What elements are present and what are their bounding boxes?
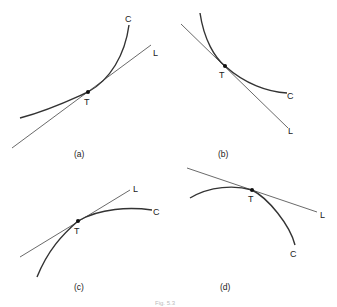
tangent-point-d xyxy=(250,188,254,192)
line-label-a: L xyxy=(153,48,158,58)
curve-d xyxy=(190,187,295,245)
tangent-point-a xyxy=(86,90,90,94)
curve-label-d: C xyxy=(290,249,297,259)
curve-b xyxy=(200,13,287,93)
panel-label-a: (a) xyxy=(74,149,85,159)
curve-label-b: C xyxy=(287,91,294,101)
line-label-d: L xyxy=(320,210,325,220)
panel-label-d: (d) xyxy=(220,282,231,292)
tangent-point-c xyxy=(76,219,80,223)
tangent-lines-figure: C L T (a) C L T (b) C L T (c) C L T (d) … xyxy=(0,0,337,307)
panel-b: C L T (b) xyxy=(181,13,294,159)
point-label-d: T xyxy=(248,194,254,204)
curve-label-a: C xyxy=(125,14,132,24)
panel-c: C L T (c) xyxy=(20,184,160,292)
line-label-c: L xyxy=(133,184,138,194)
panel-d: C L T (d) xyxy=(187,168,325,292)
tangent-line-b xyxy=(181,24,288,128)
curve-a xyxy=(20,25,129,118)
panel-label-b: (b) xyxy=(218,149,229,159)
panel-label-c: (c) xyxy=(74,282,84,292)
point-label-c: T xyxy=(74,226,80,236)
panel-a: C L T (a) xyxy=(12,14,158,159)
figure-caption: Fig. 5.3 xyxy=(155,300,176,306)
point-label-a: T xyxy=(84,97,90,107)
tangent-line-a xyxy=(12,45,151,148)
tangent-point-b xyxy=(223,64,227,68)
line-label-b: L xyxy=(288,126,293,136)
curve-c xyxy=(37,209,152,277)
point-label-b: T xyxy=(219,70,225,80)
curve-label-c: C xyxy=(153,207,160,217)
